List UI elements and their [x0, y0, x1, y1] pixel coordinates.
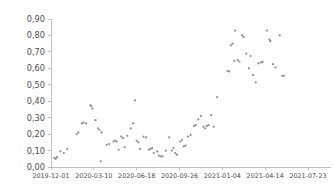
data-point [184, 145, 186, 147]
data-point [132, 122, 134, 124]
data-point [274, 66, 276, 68]
y-axis-tick-label: 0,30 [27, 113, 45, 123]
data-point [279, 34, 281, 36]
x-axis-tick-label: 2021-07-23 [289, 172, 326, 180]
data-point [250, 55, 252, 57]
x-axis-tick-group: 2019-12-012020-03-102020-06-182020-09-26… [32, 167, 326, 180]
data-point [234, 29, 236, 31]
data-point [82, 122, 84, 124]
x-axis-tick-label: 2021-01-04 [204, 172, 241, 180]
data-point [168, 136, 170, 138]
data-point [130, 127, 132, 129]
data-point [195, 124, 197, 126]
data-point-group [53, 29, 285, 162]
data-point [210, 114, 212, 116]
data-point [122, 137, 124, 139]
data-point [255, 81, 257, 83]
y-axis-tick-label: 0,60 [27, 63, 45, 73]
data-point [161, 155, 163, 157]
data-point [248, 67, 250, 69]
data-point [172, 147, 174, 149]
data-point [91, 108, 93, 110]
data-point [77, 131, 79, 133]
data-point [262, 61, 264, 63]
y-axis-tick-label: 0,00 [27, 162, 45, 172]
data-point [142, 135, 144, 137]
data-point [151, 147, 153, 149]
data-point [232, 43, 234, 45]
data-point [241, 34, 243, 36]
y-axis-tick-label: 0,40 [27, 96, 45, 106]
data-point [237, 59, 239, 61]
data-point [59, 150, 61, 152]
data-point [76, 133, 78, 135]
y-axis-tick-label: 0,80 [27, 30, 45, 40]
data-point [179, 140, 181, 142]
data-point [85, 122, 87, 124]
data-point [100, 131, 102, 133]
data-point [56, 156, 58, 158]
data-point [190, 134, 192, 136]
data-point [213, 126, 215, 128]
data-point [108, 143, 110, 145]
y-axis-tick-label: 0,90 [27, 14, 45, 24]
x-axis-tick-label: 2020-09-26 [161, 172, 198, 180]
data-point [257, 62, 259, 64]
data-point [243, 36, 245, 38]
data-point [136, 140, 138, 142]
y-axis-tick-group: 0,000,100,200,300,400,500,600,700,800,90 [27, 14, 51, 172]
data-point [252, 74, 254, 76]
data-point [204, 127, 206, 129]
data-point [216, 96, 218, 98]
scatter-chart-figure: 0,000,100,200,300,400,500,600,700,800,90… [0, 0, 335, 194]
data-point [153, 152, 155, 154]
data-point [120, 135, 122, 137]
data-point [139, 148, 141, 150]
y-axis-tick-label: 0,70 [27, 47, 45, 57]
data-point [165, 149, 167, 151]
data-point [90, 105, 92, 107]
data-point [245, 52, 247, 54]
data-point [181, 139, 183, 141]
x-axis-tick-label: 2020-06-18 [118, 172, 155, 180]
y-axis-tick-label: 0,50 [27, 80, 45, 90]
data-point [174, 152, 176, 154]
data-point [228, 71, 230, 73]
data-point [118, 149, 120, 151]
data-point [197, 118, 199, 120]
data-point [208, 124, 210, 126]
data-point [145, 136, 147, 138]
data-point [94, 119, 96, 121]
data-point [106, 144, 108, 146]
data-point [100, 160, 102, 162]
data-point [66, 148, 68, 150]
data-point [238, 61, 240, 63]
data-point [202, 126, 204, 128]
data-point [283, 75, 285, 77]
data-point [233, 60, 235, 62]
data-point [115, 140, 117, 142]
data-point [176, 154, 178, 156]
y-axis-tick-label: 0,20 [27, 129, 45, 139]
x-axis-tick-label: 2019-12-01 [32, 172, 69, 180]
x-axis-tick-label: 2021-04-14 [247, 172, 284, 180]
data-point [272, 63, 274, 65]
data-point [171, 149, 173, 151]
data-point [200, 115, 202, 117]
x-axis-tick-label: 2020-03-10 [75, 172, 112, 180]
data-point [156, 150, 158, 152]
data-point [126, 135, 128, 137]
data-point [266, 29, 268, 31]
data-point [98, 129, 100, 131]
data-point [187, 135, 189, 137]
data-point [269, 40, 271, 42]
chart-canvas: 0,000,100,200,300,400,500,600,700,800,90… [0, 0, 335, 194]
data-point [230, 44, 232, 46]
y-axis-tick-label: 0,10 [27, 146, 45, 156]
data-point [63, 152, 65, 154]
data-point [134, 99, 136, 101]
data-point [137, 141, 139, 143]
data-point [124, 146, 126, 148]
